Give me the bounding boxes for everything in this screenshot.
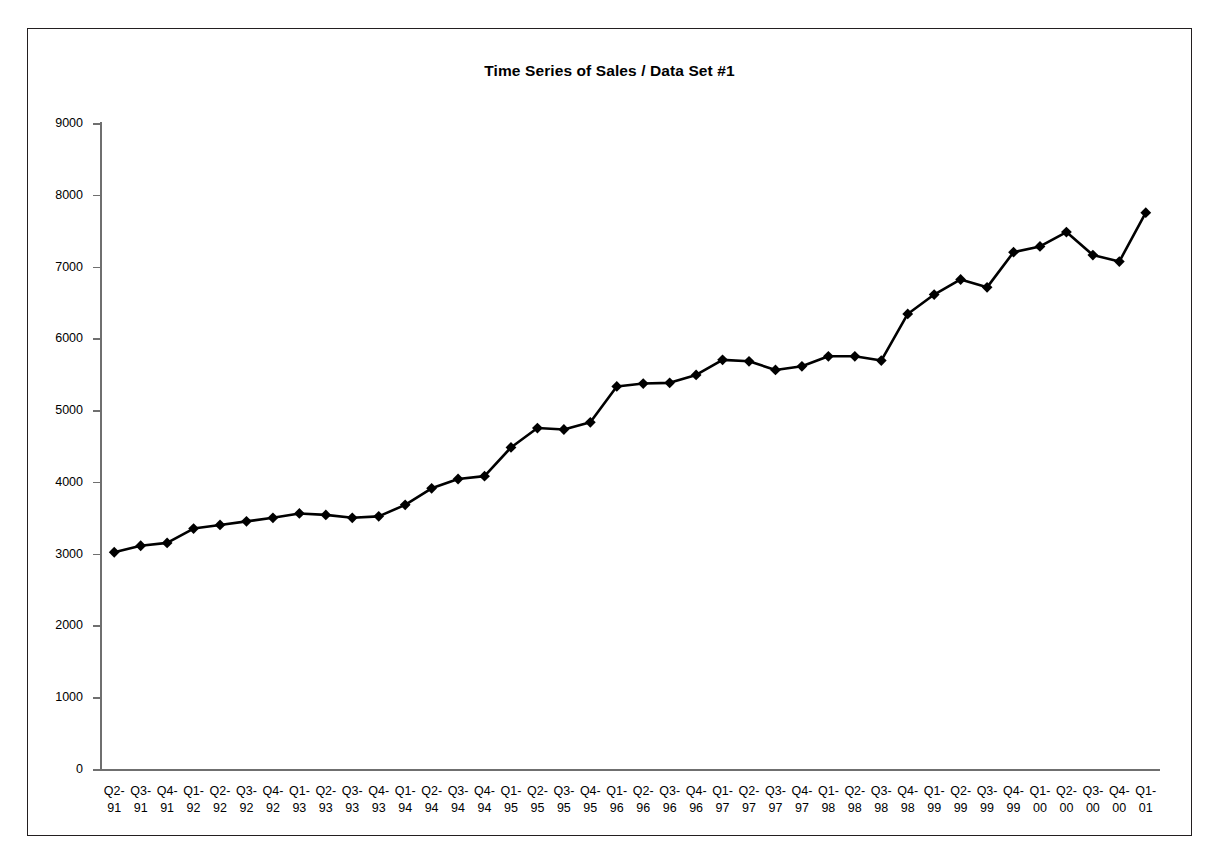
data-point-marker (1114, 256, 1125, 267)
data-point-marker (691, 370, 702, 381)
y-axis-tick-mark (93, 195, 100, 197)
y-axis-tick-label: 9000 (23, 116, 83, 130)
data-point-marker (188, 523, 199, 534)
series-polyline (114, 213, 1146, 553)
data-point-marker (373, 511, 384, 522)
page-title: Time Series of Sales / Data Set #1 (28, 62, 1191, 80)
data-point-marker (320, 510, 331, 521)
y-axis-tick-label: 6000 (23, 331, 83, 345)
y-axis-tick-mark (93, 338, 100, 340)
data-point-marker (268, 512, 279, 523)
y-axis-tick-label: 7000 (23, 260, 83, 274)
x-axis-tick-label: Q1-01 (1126, 783, 1166, 817)
y-axis-tick-mark (93, 697, 100, 699)
data-point-marker (109, 547, 120, 558)
data-point-marker (241, 516, 252, 527)
data-point-marker (717, 354, 728, 365)
data-point-marker (135, 540, 146, 551)
data-point-marker (797, 361, 808, 372)
y-axis-tick-mark (93, 769, 100, 771)
data-point-marker (558, 424, 569, 435)
data-point-marker (876, 355, 887, 366)
data-point-marker (664, 377, 675, 388)
data-point-marker (955, 274, 966, 285)
y-axis-tick-label: 5000 (23, 403, 83, 417)
data-point-marker (347, 512, 358, 523)
x-axis-line (100, 769, 1160, 771)
y-axis-tick-label: 2000 (23, 618, 83, 632)
y-axis-tick-mark (93, 554, 100, 556)
y-axis-tick-mark (93, 123, 100, 125)
y-axis-tick-label: 1000 (23, 690, 83, 704)
data-point-marker (453, 474, 464, 485)
data-point-marker (744, 356, 755, 367)
plot-area (101, 123, 1159, 769)
data-point-marker (162, 538, 173, 549)
x-axis-tick-year: 01 (1126, 800, 1166, 817)
y-axis-tick-mark (93, 410, 100, 412)
data-point-marker (770, 365, 781, 376)
y-axis-tick-label: 8000 (23, 188, 83, 202)
y-axis-tick-label: 4000 (23, 475, 83, 489)
x-axis-tick-quarter: Q1- (1126, 783, 1166, 800)
data-point-marker (215, 520, 226, 531)
data-point-marker (638, 378, 649, 389)
data-point-marker (1140, 207, 1151, 218)
data-point-marker (823, 351, 834, 362)
y-axis-tick-mark (93, 267, 100, 269)
y-axis-tick-label: 0 (23, 762, 83, 776)
data-point-marker (294, 508, 305, 519)
x-axis-labels: Q2-91Q3-91Q4-91Q1-92Q2-92Q3-92Q4-92Q1-93… (101, 783, 1159, 833)
chart-frame: Time Series of Sales / Data Set #1 01000… (27, 28, 1192, 836)
data-point-marker (849, 351, 860, 362)
y-axis-tick-mark (93, 625, 100, 627)
y-axis-tick-mark (93, 482, 100, 484)
data-point-marker (1035, 241, 1046, 252)
series-line-data-set-1 (101, 123, 1159, 769)
y-axis-tick-label: 3000 (23, 547, 83, 561)
